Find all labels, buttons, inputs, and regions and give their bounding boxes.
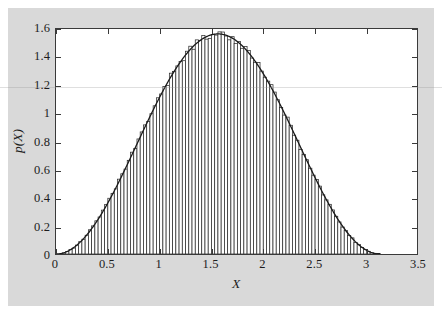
- y-tick-right-6: [412, 86, 417, 87]
- x-tick-bottom-3: [212, 249, 213, 254]
- histogram-bar: [247, 50, 250, 254]
- y-tick-label-7: 1.4: [34, 50, 50, 63]
- histogram-bar: [276, 100, 279, 254]
- x-tick-bottom-6: [367, 249, 368, 254]
- histogram-bar: [95, 221, 98, 254]
- histogram-bar: [134, 148, 137, 254]
- histogram-bar: [244, 46, 247, 254]
- y-tick-label-8: 1.6: [34, 22, 50, 35]
- x-tick-label-5: 2.5: [306, 258, 322, 271]
- y-tick-left-6: [56, 86, 61, 87]
- y-tick-label-3: 0.6: [34, 164, 50, 177]
- x-axis-title: X: [232, 277, 240, 291]
- x-tick-label-2: 1: [156, 258, 162, 271]
- x-tick-label-4: 2: [259, 258, 265, 271]
- x-tick-bottom-4: [263, 249, 264, 254]
- y-tick-left-8: [56, 29, 61, 30]
- histogram-bar: [121, 174, 124, 254]
- x-tick-top-1: [108, 29, 109, 34]
- y-tick-right-4: [412, 143, 417, 144]
- histogram-bar: [299, 150, 302, 254]
- histogram-bar: [150, 114, 153, 254]
- histogram-bar: [328, 204, 331, 254]
- y-tick-right-3: [412, 171, 417, 172]
- histogram-bar: [130, 152, 133, 254]
- histogram-bar: [292, 135, 295, 254]
- y-axis-title: p(X): [11, 129, 25, 153]
- y-tick-left-1: [56, 228, 61, 229]
- x-tick-top-6: [367, 29, 368, 34]
- histogram-bar: [325, 200, 328, 254]
- x-tick-bottom-1: [108, 249, 109, 254]
- histogram-bar: [182, 61, 185, 254]
- x-tick-top-3: [212, 29, 213, 34]
- histogram-bar: [82, 239, 85, 254]
- histogram-bar: [312, 175, 315, 254]
- histogram-bar: [354, 243, 357, 254]
- histogram-bar: [331, 210, 334, 254]
- x-tick-bottom-5: [315, 249, 316, 254]
- histogram-bar: [263, 77, 266, 254]
- histogram-bar: [270, 85, 273, 254]
- histogram-bar: [153, 106, 156, 254]
- histogram-bar: [118, 179, 121, 254]
- y-tick-left-7: [56, 57, 61, 58]
- x-tick-bottom-0: [56, 249, 57, 254]
- y-tick-right-5: [412, 114, 417, 115]
- x-tick-top-4: [263, 29, 264, 34]
- histogram-bar: [166, 85, 169, 254]
- histogram-bar: [101, 210, 104, 254]
- histogram-bar: [260, 71, 263, 254]
- histogram-bars: [59, 32, 380, 254]
- histogram-bar: [176, 66, 179, 254]
- histogram-bar: [147, 121, 150, 254]
- histogram-bar: [160, 94, 163, 254]
- histogram-bar: [234, 44, 237, 254]
- histogram-bar: [286, 117, 289, 254]
- histogram-bar: [289, 125, 292, 254]
- histogram-bar: [221, 32, 224, 254]
- y-tick-right-1: [412, 228, 417, 229]
- histogram-bar: [283, 115, 286, 254]
- y-tick-right-8: [412, 29, 417, 30]
- x-tick-bottom-2: [160, 249, 161, 254]
- histogram-bar: [338, 222, 341, 254]
- histogram-bar: [231, 37, 234, 254]
- y-tick-label-5: 1: [44, 107, 50, 120]
- histogram-bar: [215, 35, 218, 254]
- histogram-bar: [111, 193, 114, 254]
- histogram-bar: [140, 132, 143, 254]
- y-tick-left-2: [56, 199, 61, 200]
- histogram-bar: [98, 217, 101, 254]
- histogram-bar: [127, 160, 130, 254]
- y-tick-label-2: 0.4: [34, 192, 50, 205]
- histogram-bar: [344, 230, 347, 254]
- x-tick-label-6: 3: [363, 258, 369, 271]
- histogram-bar: [347, 236, 350, 254]
- x-tick-label-3: 1.5: [203, 258, 219, 271]
- histogram-bar: [169, 73, 172, 254]
- histogram-bar: [85, 235, 88, 254]
- histogram-bar: [199, 40, 202, 254]
- x-tick-label-0: 0: [52, 258, 58, 271]
- chart-canvas: [56, 29, 417, 254]
- x-tick-top-2: [160, 29, 161, 34]
- histogram-bar: [173, 71, 176, 254]
- histogram-bar: [114, 189, 117, 254]
- histogram-bar: [296, 140, 299, 254]
- y-tick-left-3: [56, 171, 61, 172]
- histogram-bar: [195, 40, 198, 254]
- histogram-bar: [279, 108, 282, 254]
- histogram-bar: [309, 168, 312, 254]
- histogram-bar: [305, 160, 308, 254]
- histogram-bar: [205, 39, 208, 254]
- x-tick-top-5: [315, 29, 316, 34]
- histogram-bar: [250, 58, 253, 254]
- y-tick-right-2: [412, 199, 417, 200]
- histogram-bar: [224, 36, 227, 254]
- figure-container: 00.511.522.533.5 00.20.40.60.811.21.41.6…: [0, 0, 442, 315]
- histogram-bar: [228, 40, 231, 254]
- x-tick-label-7: 3.5: [410, 258, 426, 271]
- histogram-bar: [192, 49, 195, 254]
- histogram-bar: [254, 62, 257, 254]
